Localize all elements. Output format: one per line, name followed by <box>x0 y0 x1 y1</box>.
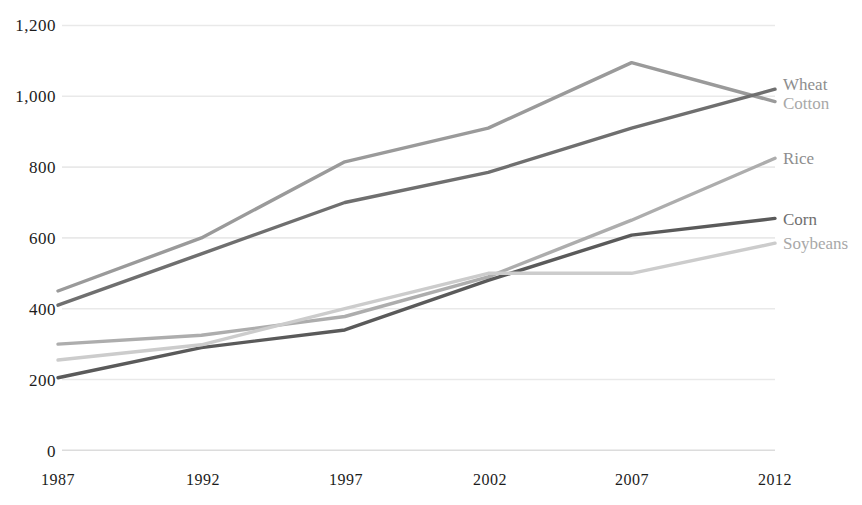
x-tick-label-2002: 2002 <box>450 472 530 488</box>
y-tick-label-200: 200 <box>0 372 56 389</box>
series-label-cotton: Cotton <box>783 95 829 112</box>
y-tick-label-600: 600 <box>0 230 56 247</box>
series-line-wheat <box>58 89 775 305</box>
y-tick-label-800: 800 <box>0 159 56 176</box>
series-label-soybeans: Soybeans <box>783 235 848 252</box>
line-chart: 1,200 1,000 800 600 400 200 0 1987 1992 … <box>0 0 862 505</box>
gridlines <box>62 26 775 451</box>
series-label-corn: Corn <box>783 211 817 228</box>
chart-plot-area <box>0 0 862 505</box>
y-tick-label-0: 0 <box>0 443 56 460</box>
x-tick-label-1997: 1997 <box>306 472 386 488</box>
series-lines <box>58 63 775 378</box>
x-tick-label-2012: 2012 <box>735 472 815 488</box>
y-tick-label-1200: 1,200 <box>0 17 56 34</box>
y-tick-label-1000: 1,000 <box>0 88 56 105</box>
series-line-soybeans <box>58 243 775 360</box>
x-tick-label-1992: 1992 <box>163 472 243 488</box>
series-label-wheat: Wheat <box>783 76 827 93</box>
y-tick-label-400: 400 <box>0 301 56 318</box>
series-label-rice: Rice <box>783 150 814 167</box>
x-tick-label-1987: 1987 <box>18 472 98 488</box>
x-tick-label-2007: 2007 <box>592 472 672 488</box>
